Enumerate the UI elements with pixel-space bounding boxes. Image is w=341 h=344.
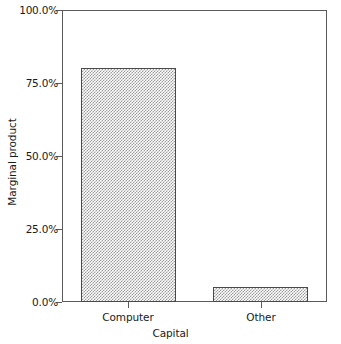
y-axis-title: Marginal product [6,102,18,222]
y-tick-label-0: 0.0% [32,296,58,308]
x-tick-mark-computer [128,302,129,308]
y-tick-label-75: 75.0% [26,77,58,89]
y-tick-label-50: 50.0% [26,150,58,162]
x-axis-title: Capital [0,327,341,339]
bar-other [213,287,308,302]
x-tick-label-computer: Computer [102,311,153,323]
y-tick-label-100: 100.0% [19,4,58,16]
y-tick-label-25: 25.0% [26,223,58,235]
x-tick-mark-other [261,302,262,308]
x-tick-label-other: Other [246,311,275,323]
bar-computer [81,68,176,302]
bar-chart: 100.0% 75.0% 50.0% 25.0% 0.0% Computer O… [0,0,341,344]
